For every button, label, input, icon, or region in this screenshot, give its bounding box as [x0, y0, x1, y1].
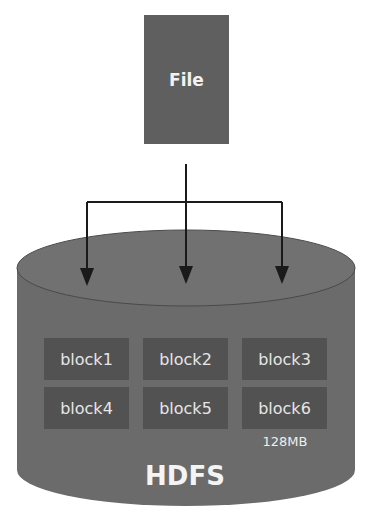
block-6: block6 — [242, 387, 327, 429]
block-3: block3 — [242, 338, 327, 380]
file-label: File — [169, 70, 204, 90]
block-label: block1 — [60, 350, 113, 369]
block-4: block4 — [44, 387, 129, 429]
block-2: block2 — [143, 338, 228, 380]
block-label: block5 — [159, 399, 212, 418]
block-size-label: 128MB — [252, 434, 318, 449]
block-1: block1 — [44, 338, 129, 380]
block-label: block4 — [60, 399, 113, 418]
file-node: File — [144, 15, 229, 144]
hdfs-label: HDFS — [100, 461, 270, 491]
block-label: block2 — [159, 350, 212, 369]
block-label: block3 — [258, 350, 311, 369]
block-label: block6 — [258, 399, 311, 418]
block-5: block5 — [143, 387, 228, 429]
